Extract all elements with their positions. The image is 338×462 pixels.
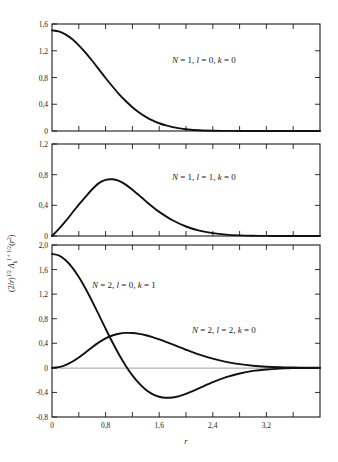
panel-2-curve [52,179,320,236]
panel-2-annotation: N = 1, l = 1, k = 0 [171,172,236,182]
panel-1-ytick-label: 0,8 [39,74,49,83]
panel-1-annotation: N = 1, l = 0, k = 0 [171,55,236,65]
panel-3-annotation-2: N = 2, l = 2, k = 0 [191,325,256,335]
panel-1-ytick-label: 0 [44,127,48,136]
svg-text:(2/r)1/2 Λkl + 1/2(r2): (2/r)1/2 Λkl + 1/2(r2) [6,234,18,292]
xtick-label: 1,6 [155,421,165,430]
panel-2-ytick-label: 0 [44,232,48,241]
panel-1-x-ticks [79,24,320,131]
panel-3-xtick-labels: 0 0,8 1,6 2,4 3,2 [50,421,271,430]
panel-3-ytick-label: 1,2 [39,290,49,299]
panel-1-ytick-label: 1,2 [39,47,49,56]
panel-3-frame [52,245,320,417]
panel-1: 1,6 1,2 0,8 0,4 0 [39,20,320,136]
figure-root: (2/r)1/2 Λkl + 1/2(r2) 1,6 1,2 0,8 0,4 0 [0,0,338,462]
panel-3-ytick-label: 0 [44,364,48,373]
y-axis-title: (2/r)1/2 Λkl + 1/2(r2) [6,234,18,292]
panel-2-ytick-label: 0,4 [39,201,49,210]
panel-3-curve-l0k1 [52,254,320,398]
panel-3-ytick-label: -0,8 [36,413,48,422]
panel-3-ytick-label: 0,8 [39,315,49,324]
panel-3-ytick-label: 0,4 [39,339,49,348]
panel-3-ytick-label: 2,0 [39,241,49,250]
x-axis-title: r [184,436,188,446]
panel-1-curve [52,30,320,131]
xtick-label: 0,8 [101,421,111,430]
panel-3-curve-l2k0 [52,333,320,368]
panel-3-ytick-label: 1,6 [39,266,49,275]
panel-3-y-ticks: 2,0 1,6 1,2 0,8 0,4 0 -0,4 -0,8 [36,241,57,422]
panel-3: 2,0 1,6 1,2 0,8 0,4 0 -0,4 -0,8 [36,241,320,446]
panel-1-y-ticks: 1,6 1,2 0,8 0,4 0 [39,20,57,136]
panel-2-y-ticks: 1,2 0,8 0,4 0 [39,140,57,241]
panel-2: 1,2 0,8 0,4 0 [39,140,320,241]
panel-2-ytick-label: 1,2 [39,140,49,149]
xtick-label: 0 [50,421,54,430]
panel-3-ytick-label: -0,4 [36,388,48,397]
xtick-label: 2,4 [208,421,218,430]
panel-3-annotation-1: N = 2, l = 0, k = 1 [91,280,156,290]
panel-1-ytick-label: 1,6 [39,20,49,29]
panel-2-x-ticks [79,144,320,236]
xtick-label: 3,2 [262,421,272,430]
panel-2-ytick-label: 0,8 [39,171,49,180]
panel-1-frame [52,24,320,131]
panel-1-ytick-label: 0,4 [39,100,49,109]
